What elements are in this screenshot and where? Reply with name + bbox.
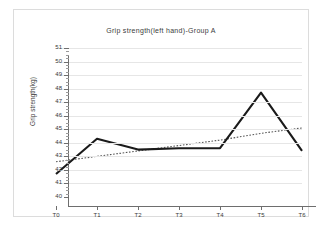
y-axis-minor-tick [66, 95, 69, 96]
y-axis-tick [64, 102, 69, 103]
y-axis-tick-label: 44 [40, 139, 62, 145]
x-axis-tick-label: T0 [46, 212, 66, 218]
gridline [56, 89, 302, 90]
gridline [56, 156, 302, 157]
gridline [56, 102, 302, 103]
x-axis-tick-label: T1 [87, 212, 107, 218]
y-axis-minor-tick [66, 163, 69, 164]
y-axis-minor-tick [66, 99, 69, 100]
gridline [56, 170, 302, 171]
gridline [56, 183, 302, 184]
y-axis-tick-label: 47 [40, 98, 62, 104]
y-axis-tick [64, 89, 69, 90]
chart-frame: Grip strength(left hand)-Group A Grip st… [13, 9, 309, 217]
y-axis-minor-tick [66, 177, 69, 178]
x-axis-tick [261, 206, 262, 210]
x-axis-tick-label: T4 [210, 212, 230, 218]
y-axis-tick-label: 41 [40, 179, 62, 185]
y-axis-minor-tick [66, 68, 69, 69]
y-axis-minor-tick [66, 180, 69, 181]
y-axis-minor-tick [66, 173, 69, 174]
y-axis-minor-tick [66, 55, 69, 56]
y-axis-minor-tick [66, 51, 69, 52]
y-axis-tick [64, 129, 69, 130]
y-axis-tick-label: 48 [40, 85, 62, 91]
y-axis-tick [64, 75, 69, 76]
y-axis-minor-tick [66, 194, 69, 195]
y-axis-minor-tick [66, 160, 69, 161]
gridline [56, 48, 302, 49]
y-axis-minor-tick [66, 123, 69, 124]
gridline [56, 129, 302, 130]
gridline [56, 75, 302, 76]
y-axis-tick-label: 42 [40, 166, 62, 172]
y-axis-tick [64, 197, 69, 198]
x-axis-tick [302, 206, 303, 210]
y-axis-minor-tick [66, 65, 69, 66]
y-axis-minor-tick [66, 82, 69, 83]
y-axis-tick-label: 51 [40, 44, 62, 50]
y-axis-tick [64, 62, 69, 63]
y-axis-minor-tick [66, 126, 69, 127]
y-axis-minor-tick [66, 106, 69, 107]
y-axis-minor-tick [66, 112, 69, 113]
y-axis-minor-tick [66, 109, 69, 110]
grip-strength-series [56, 93, 302, 174]
gridline [56, 116, 302, 117]
y-axis-minor-tick [66, 85, 69, 86]
y-axis-minor-tick [66, 139, 69, 140]
gridline [56, 62, 302, 63]
x-axis-tick [220, 206, 221, 210]
y-axis-minor-tick [66, 72, 69, 73]
x-axis-tick [179, 206, 180, 210]
x-axis-tick-label: T3 [169, 212, 189, 218]
y-axis-minor-tick [66, 187, 69, 188]
y-axis-tick-label: 43 [40, 152, 62, 158]
y-axis-minor-tick [66, 153, 69, 154]
y-axis-tick [64, 116, 69, 117]
y-axis-tick-label: 50 [40, 58, 62, 64]
y-axis-minor-tick [66, 78, 69, 79]
y-axis-tick [64, 156, 69, 157]
x-axis-tick [138, 206, 139, 210]
y-axis-minor-tick [66, 133, 69, 134]
y-axis-minor-tick [66, 119, 69, 120]
x-axis-tick-label: T2 [128, 212, 148, 218]
y-axis-tick-label: 40 [40, 193, 62, 199]
x-axis-tick [56, 206, 57, 210]
y-axis-tick [64, 48, 69, 49]
y-axis-tick [64, 170, 69, 171]
y-axis-minor-tick [66, 58, 69, 59]
y-axis-tick-label: 49 [40, 71, 62, 77]
x-axis-tick [97, 206, 98, 210]
y-axis-tick [64, 143, 69, 144]
y-axis-minor-tick [66, 150, 69, 151]
y-axis-tick-label: 46 [40, 112, 62, 118]
y-axis-minor-tick [66, 167, 69, 168]
gridline [56, 143, 302, 144]
y-axis-minor-tick [66, 146, 69, 147]
x-axis-tick-label: T5 [251, 212, 271, 218]
y-axis-minor-tick [66, 136, 69, 137]
y-axis-minor-tick [66, 190, 69, 191]
x-axis-tick-label: T6 [292, 212, 312, 218]
y-axis-tick-label: 45 [40, 125, 62, 131]
y-axis-tick [64, 183, 69, 184]
y-axis-minor-tick [66, 92, 69, 93]
